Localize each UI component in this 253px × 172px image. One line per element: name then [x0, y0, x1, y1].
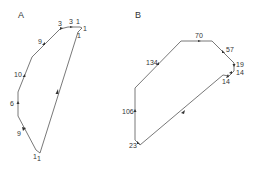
edge-label: 57: [226, 46, 234, 53]
arrow-icon: [229, 71, 232, 74]
edge-label: 1: [77, 32, 81, 39]
arrow-icon: [134, 109, 137, 112]
panel-a-arrows: [17, 26, 74, 131]
arrow-icon: [222, 50, 225, 53]
panel-a-label: A: [18, 10, 24, 20]
arrow-icon: [70, 26, 73, 28]
panel-b: B 134 70 57 19 14 14 106 23: [122, 10, 244, 149]
panel-b-arrows: [134, 40, 236, 144]
panel-b-edge-labels: 134 70 57 19 14 14 106 23: [122, 32, 244, 149]
arrow-icon: [181, 110, 185, 114]
edge-label: 14: [222, 78, 230, 85]
edge-label: 23: [129, 142, 137, 149]
panel-a-path: [18, 27, 82, 153]
edge-label: 3: [58, 20, 62, 27]
panel-b-label: B: [135, 10, 141, 20]
edge-label: 1: [83, 25, 87, 32]
edge-label: 3: [69, 18, 73, 25]
edge-label: 134: [146, 59, 158, 66]
panel-b-path: [135, 41, 234, 145]
arrow-icon: [17, 101, 20, 104]
edge-label: 10: [14, 71, 22, 78]
arrow-icon: [23, 74, 26, 77]
arrow-icon: [56, 89, 59, 94]
edge-label: 19: [236, 61, 244, 68]
arrow-icon: [42, 42, 45, 45]
edge-label: 6: [10, 100, 14, 107]
arrow-icon: [137, 141, 140, 144]
edge-label: 9: [38, 38, 42, 45]
edge-label: 1: [37, 155, 41, 162]
edge-label: 1: [76, 18, 80, 25]
panel-a: A 9 6 10 9 3 3 1 1 1 1 1: [10, 10, 87, 162]
polygon-diagram: A 9 6 10 9 3 3 1 1 1 1 1 B: [0, 0, 253, 172]
edge-label: 9: [17, 130, 21, 137]
arrow-icon: [198, 40, 201, 42]
edge-label: 106: [122, 108, 134, 115]
edge-label: 14: [236, 69, 244, 76]
edge-label: 70: [195, 32, 203, 39]
